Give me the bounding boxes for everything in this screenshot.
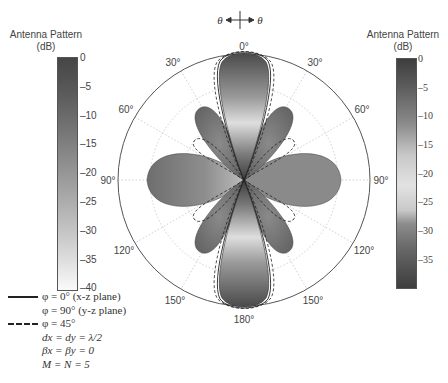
legend-label: φ = 0° (x-z plane) <box>42 290 121 304</box>
angle-label-right-120: 120° <box>354 245 375 256</box>
angle-label-180: 180° <box>234 314 255 325</box>
solid-line-swatch <box>8 296 38 298</box>
theta-right-label: θ <box>257 14 263 26</box>
legend: φ = 0° (x-z plane) φ = 90° (y-z plane) φ… <box>8 290 126 371</box>
legend-param-elements: M = N = 5 <box>8 358 126 372</box>
legend-item-phi45: φ = 45° <box>8 317 126 331</box>
angle-label-left-30: 30° <box>165 57 180 68</box>
legend-label: φ = 90° (y-z plane) <box>42 304 126 318</box>
param-text: M = N = 5 <box>42 358 90 372</box>
legend-item-phi90: φ = 90° (y-z plane) <box>8 304 126 318</box>
angle-label-left-150: 150° <box>165 295 186 306</box>
theta-left-label: θ <box>217 14 223 26</box>
legend-label: φ = 45° <box>42 317 75 331</box>
param-text: βx = βy = 0 <box>42 344 94 358</box>
angle-label-right-90: 90° <box>373 175 388 186</box>
angle-label-left-60: 60° <box>118 104 133 115</box>
angle-label-0: 0° <box>239 41 249 52</box>
dashed-line-swatch <box>8 323 38 325</box>
legend-param-phase: βx = βy = 0 <box>8 344 126 358</box>
angle-label-left-120: 120° <box>114 245 135 256</box>
angle-label-right-60: 60° <box>354 104 369 115</box>
legend-item-phi0: φ = 0° (x-z plane) <box>8 290 126 304</box>
legend-param-spacing: dx = dy = λ/2 <box>8 331 126 345</box>
angle-label-right-30: 30° <box>307 57 322 68</box>
angle-label-right-150: 150° <box>303 295 324 306</box>
theta-indicator <box>226 11 254 29</box>
param-text: dx = dy = λ/2 <box>42 331 102 345</box>
angle-label-left-90: 90° <box>100 175 115 186</box>
